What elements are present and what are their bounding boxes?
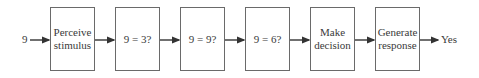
step-label: 9 = 9? <box>189 33 217 46</box>
step-compare-9: 9 = 9? <box>180 7 225 71</box>
step-label: Make decision <box>311 26 354 52</box>
input-label: 9 <box>22 32 28 46</box>
step-label: 9 = 3? <box>124 33 152 46</box>
step-compare-6: 9 = 6? <box>245 7 290 71</box>
step-label: Perceive stimulus <box>51 26 94 52</box>
step-perceive-stimulus: Perceive stimulus <box>50 7 95 71</box>
output-label: Yes <box>441 32 457 46</box>
step-label: Generate response <box>376 26 419 52</box>
step-compare-3: 9 = 3? <box>115 7 160 71</box>
step-generate-response: Generate response <box>375 7 420 71</box>
step-label: 9 = 6? <box>254 33 282 46</box>
step-make-decision: Make decision <box>310 7 355 71</box>
